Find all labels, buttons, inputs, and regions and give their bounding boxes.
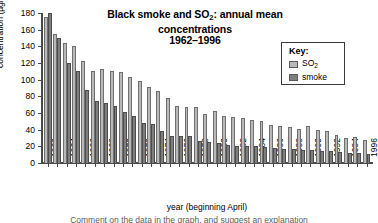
y-axis-tick-label: 80 [26, 92, 35, 101]
x-axis-tick [301, 163, 302, 167]
bar-smoke-1981 [226, 145, 230, 163]
bar-smoke-1985 [263, 147, 267, 163]
y-axis-title: concentration (µg/m3) [0, 0, 5, 68]
bar-smoke-1975 [170, 136, 174, 164]
bar-smoke-1977 [188, 136, 192, 164]
bar-smoke-1989 [301, 150, 305, 163]
bar-smoke-1980 [217, 143, 221, 163]
y-axis-line [41, 13, 43, 163]
y-axis-tick [38, 63, 42, 64]
bar-smoke-1991 [320, 151, 324, 164]
bar-smoke-1971 [132, 116, 136, 164]
bar-group [185, 13, 194, 163]
bar-smoke-1966 [85, 90, 89, 163]
bar-smoke-1965 [76, 71, 80, 164]
x-axis-title: year (beginning April) [41, 202, 373, 212]
x-axis-tick [329, 163, 330, 167]
x-axis-tick [142, 163, 143, 167]
x-axis-tick [235, 163, 236, 167]
x-axis-tick [245, 163, 246, 167]
x-axis-tick [114, 163, 115, 167]
x-axis-tick [170, 163, 171, 167]
x-axis-tick [263, 163, 264, 167]
plot-inner [41, 13, 373, 163]
x-axis-tick [273, 163, 274, 167]
bar-smoke-1987 [282, 149, 286, 163]
y-axis-tick [38, 96, 42, 97]
x-axis-tick-label: 1996 [370, 138, 378, 157]
y-axis-title-pre: concentration (µg/m [0, 0, 5, 68]
x-axis-tick [189, 163, 190, 167]
y-axis-tick-label: 40 [26, 125, 35, 134]
x-axis-tick [76, 163, 77, 167]
bar-smoke-1993 [338, 152, 342, 163]
y-axis-tick-label: 180 [21, 9, 35, 18]
y-axis-tick [38, 30, 42, 31]
x-axis-tick [367, 163, 368, 167]
bar-smoke-1974 [160, 131, 164, 164]
bar-group [91, 13, 100, 163]
y-axis-tick-label: 20 [26, 142, 35, 151]
bar-group [110, 13, 119, 163]
y-axis-tick [38, 46, 42, 47]
x-axis-tick [254, 163, 255, 167]
bar-smoke-1984 [254, 146, 258, 163]
x-axis-tick [357, 163, 358, 167]
bar-smoke-1978 [198, 141, 202, 163]
x-axis-tick [179, 163, 180, 167]
bar-smoke-1972 [142, 123, 146, 163]
x-axis-tick [104, 163, 105, 167]
bar-smoke-1970 [123, 112, 127, 163]
x-axis-tick [320, 163, 321, 167]
x-axis-tick [132, 163, 133, 167]
x-axis-tick [348, 163, 349, 167]
y-axis-tick-label: 0 [30, 159, 35, 168]
y-axis-tick [38, 163, 42, 164]
plot-area [41, 13, 373, 163]
bar-smoke-1979 [207, 142, 211, 163]
y-axis-tick [38, 80, 42, 81]
bar-smoke-1962 [48, 13, 52, 163]
bar-smoke-1983 [245, 146, 249, 163]
x-axis-tick [198, 163, 199, 167]
x-axis-tick [207, 163, 208, 167]
x-axis-tick [226, 163, 227, 167]
y-axis-tick-label: 140 [21, 42, 35, 51]
bar-smoke-1995 [357, 153, 361, 163]
x-axis-tick [160, 163, 161, 167]
bar-smoke-1994 [348, 153, 352, 163]
bar-smoke-1988 [292, 149, 296, 163]
bar-group [72, 13, 81, 163]
y-axis-tick [38, 13, 42, 14]
bar-group [53, 13, 62, 163]
x-axis-tick [151, 163, 152, 167]
bar-smoke-1969 [114, 106, 118, 164]
x-axis-tick [48, 163, 49, 167]
bar-smoke-1982 [235, 146, 239, 164]
bar-smoke-1992 [329, 151, 333, 163]
y-axis-tick [38, 146, 42, 147]
y-axis-tick-label: 120 [21, 59, 35, 68]
x-axis-tick [67, 163, 68, 167]
chart-figure: Black smoke and SO2: annual mean concent… [0, 0, 378, 223]
bar-smoke-1964 [67, 63, 71, 163]
bar-group [147, 13, 156, 163]
x-axis-tick [85, 163, 86, 167]
bar-smoke-1996 [367, 154, 371, 163]
bar-smoke-1990 [310, 150, 314, 163]
y-axis-tick-label: 100 [21, 75, 35, 84]
bar-group [128, 13, 137, 163]
bar-smoke-1973 [151, 124, 155, 163]
bar-smoke-1967 [95, 101, 99, 163]
x-axis-tick [217, 163, 218, 167]
x-axis-tick [292, 163, 293, 167]
y-axis-tick [38, 130, 42, 131]
x-axis-tick [282, 163, 283, 167]
bar-smoke-1963 [57, 38, 61, 163]
x-axis-tick [338, 163, 339, 167]
y-axis-tick-label: 160 [21, 25, 35, 34]
bar-smoke-1986 [273, 148, 277, 163]
y-axis-tick-label: 60 [26, 109, 35, 118]
bar-smoke-1976 [179, 136, 183, 164]
bar-smoke-1968 [104, 103, 108, 163]
